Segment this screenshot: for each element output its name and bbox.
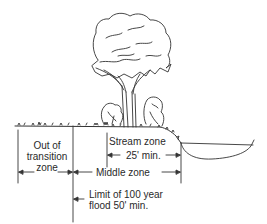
label-line: transition	[24, 151, 70, 162]
shrub-right-icon	[144, 97, 164, 126]
label-line: zone	[24, 162, 70, 173]
shrub-left-icon	[101, 103, 122, 124]
stream-channel	[181, 140, 254, 159]
tree-icon	[92, 13, 171, 127]
stream-zone-min-label: 25' min.	[126, 150, 161, 161]
stream-zone-label: Stream zone	[109, 136, 166, 147]
label-line: Limit of 100 year	[89, 189, 163, 200]
middle-zone-label: Middle zone	[96, 167, 150, 178]
label-line: Out of	[24, 140, 70, 151]
out-of-transition-label: Out of transition zone	[24, 140, 70, 173]
flood-limit-label: Limit of 100 year flood 50' min.	[89, 189, 163, 211]
label-line: flood 50' min.	[89, 200, 163, 211]
